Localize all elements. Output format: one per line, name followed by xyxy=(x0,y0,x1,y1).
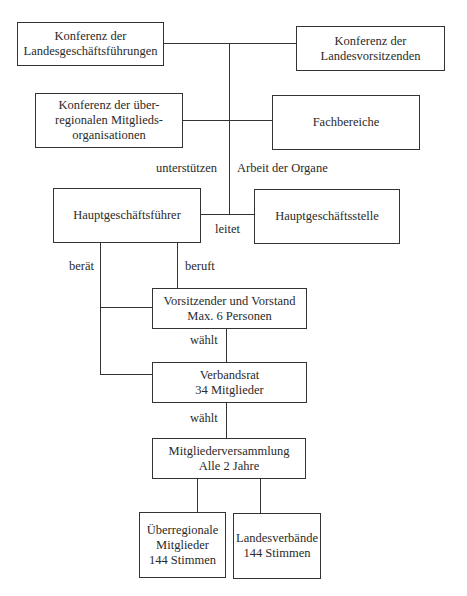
node-text: Landesgeschäftsführungen xyxy=(24,44,158,59)
connector-fachbereiche xyxy=(229,120,272,121)
node-text: organisationen xyxy=(72,128,145,143)
node-hauptgeschaeftsfuehrer: Hauptgeschäftsführer xyxy=(53,188,201,243)
connector-mv-ueberregionale xyxy=(197,478,198,512)
node-text: Überregionale xyxy=(147,523,219,538)
connector-ueberregionale-konferenz xyxy=(182,120,230,121)
node-mitgliederversammlung: Mitgliederversammlung Alle 2 Jahre xyxy=(152,438,306,479)
edge-label-beruft: beruft xyxy=(185,259,215,273)
node-ueberregionale-konferenz: Konferenz der über- regionalen Mitglieds… xyxy=(35,93,183,148)
node-text: Hauptgeschäftsstelle xyxy=(275,209,378,224)
node-landesgeschaeftsfuehrungen: Konferenz der Landesgeschäftsführungen xyxy=(17,22,164,66)
connector-beraet xyxy=(100,242,101,375)
node-text: regionalen Mitglieds- xyxy=(55,113,163,128)
node-text: Konferenz der xyxy=(55,29,127,44)
connector-landesvorsitzenden xyxy=(229,43,296,44)
node-verbandsrat: Verbandsrat 34 Mitglieder xyxy=(152,362,307,403)
node-text: Hauptgeschäftsführer xyxy=(73,208,181,223)
node-text: Max. 6 Personen xyxy=(187,309,271,324)
node-text: Vorsitzender und Vorstand xyxy=(164,294,296,309)
main-vertical-connector xyxy=(229,43,230,215)
node-vorstand: Vorsitzender und Vorstand Max. 6 Persone… xyxy=(152,288,307,329)
edge-label-waehlt-2: wählt xyxy=(190,411,218,425)
node-hauptgeschaeftsstelle: Hauptgeschäftsstelle xyxy=(254,189,400,244)
edge-label-waehlt-1: wählt xyxy=(190,333,218,347)
edge-label-beraet: berät xyxy=(69,259,94,273)
node-fachbereiche: Fachbereiche xyxy=(272,95,420,150)
connector-beruft xyxy=(177,242,178,288)
node-landesvorsitzenden: Konferenz der Landesvorsitzenden xyxy=(296,26,445,71)
node-text: 144 Stimmen xyxy=(149,553,216,568)
node-landesverbaende: Landesverbände 144 Stimmen xyxy=(233,513,321,579)
node-text: Konferenz der xyxy=(335,34,407,49)
connector-mv-landesverbaende xyxy=(260,478,261,513)
node-text: 144 Stimmen xyxy=(243,546,310,561)
edge-label-leitet: leitet xyxy=(215,222,240,236)
connector-hgf-hgs xyxy=(200,214,254,215)
connector-beraet-vorstand xyxy=(100,307,152,308)
node-text: Landesverbände xyxy=(236,531,318,546)
edge-label-arbeit-der-organe: Arbeit der Organe xyxy=(237,161,328,175)
node-text: Mitglieder xyxy=(156,538,209,553)
connector-verbandsrat-mv xyxy=(226,402,227,438)
connector-landesgeschaeftsfuehrungen xyxy=(163,43,230,44)
node-text: Fachbereiche xyxy=(313,115,380,130)
connector-beraet-verbandsrat xyxy=(100,374,152,375)
node-text: 34 Mitglieder xyxy=(195,383,263,398)
node-text: Verbandsrat xyxy=(200,368,260,383)
connector-vorstand-verbandsrat xyxy=(226,328,227,362)
edge-label-unterstuetzen: unterstützen xyxy=(156,161,217,175)
node-text: Landesvorsitzenden xyxy=(321,49,421,64)
node-text: Alle 2 Jahre xyxy=(199,459,259,474)
node-text: Mitgliederversammlung xyxy=(169,444,290,459)
node-ueberregionale-mitglieder: Überregionale Mitglieder 144 Stimmen xyxy=(139,512,226,578)
node-text: Konferenz der über- xyxy=(58,98,159,113)
